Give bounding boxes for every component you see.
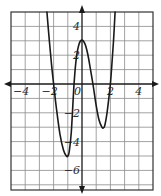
x-axis-left-arrow-icon <box>4 81 11 87</box>
x-tick-labels: −4−2024 <box>13 85 142 98</box>
function-graph: −4−2024 42−2−4−6 <box>0 0 161 196</box>
y-tick-label: −6 <box>64 164 80 177</box>
x-tick-label: 4 <box>134 85 142 98</box>
y-tick-labels: 42−2−4−6 <box>64 20 80 177</box>
x-tick-label: −4 <box>13 85 29 98</box>
axes <box>4 5 159 194</box>
y-tick-label: −4 <box>64 136 80 149</box>
y-tick-label: 4 <box>72 20 80 33</box>
y-axis-up-arrow-icon <box>79 5 85 13</box>
x-tick-label: 0 <box>74 85 81 98</box>
x-axis-right-arrow-icon <box>152 81 159 87</box>
